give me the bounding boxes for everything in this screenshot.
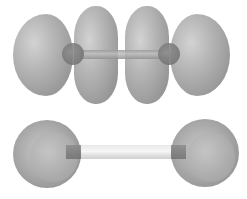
bottom-bond-stub-right <box>171 145 186 159</box>
bottom-bond <box>66 145 186 159</box>
diagram-canvas <box>0 0 247 199</box>
top-bond <box>80 50 170 59</box>
bottom-atom-right-inner <box>187 132 235 182</box>
bottom-molecule <box>0 110 247 199</box>
bottom-bond-stub-left <box>66 145 81 159</box>
top-atom-left <box>62 43 84 65</box>
top-atom-right <box>158 43 180 65</box>
top-molecule <box>0 0 247 110</box>
